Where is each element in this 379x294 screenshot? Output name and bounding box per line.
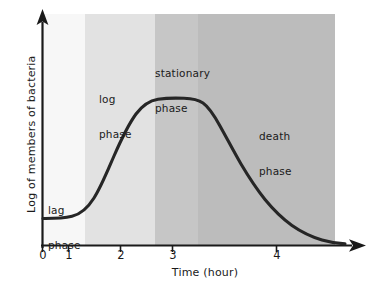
chart-canvas — [0, 0, 379, 294]
band-lag-phase — [43, 14, 85, 245]
growth-curve-chart: Log of members of bacteria Time (hour) 0… — [0, 0, 379, 294]
band-death-phase — [198, 14, 335, 245]
band-stationary-phase — [155, 14, 198, 245]
band-log-phase — [85, 14, 155, 245]
phase-bands — [43, 14, 335, 245]
